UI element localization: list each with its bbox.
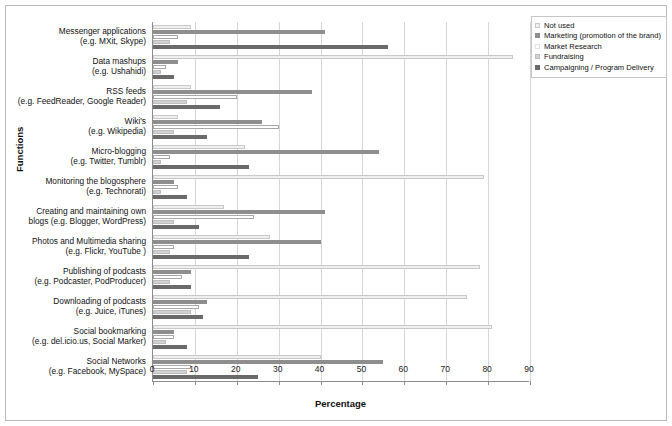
x-tick-label: 70 [440, 364, 449, 374]
bar [153, 90, 312, 94]
bar [153, 315, 203, 319]
bar [153, 35, 178, 39]
bar [153, 240, 321, 244]
bar [153, 120, 262, 124]
legend-item[interactable]: Marketing (promotion of the brand) [535, 31, 661, 42]
y-category-label: Data mashups (e.g. Ushahidi) [0, 57, 150, 76]
bar [153, 280, 170, 284]
bar [153, 135, 207, 139]
y-category-label: Photos and Multimedia sharing (e.g. Flic… [0, 237, 150, 256]
bar [153, 210, 325, 214]
bar [153, 305, 199, 309]
bar [153, 270, 191, 274]
bar [153, 55, 513, 59]
bar [153, 150, 379, 154]
x-tick-label: 0 [150, 364, 155, 374]
legend-swatch-icon [535, 23, 540, 28]
bar [153, 145, 245, 149]
bar [153, 275, 182, 279]
x-tick-mark [446, 381, 447, 385]
bar [153, 360, 383, 364]
legend-item[interactable]: Campaigning / Program Delivery [535, 62, 661, 73]
y-category-label: RSS feeds (e.g. FeedReader, Google Reade… [0, 87, 150, 106]
bar [153, 175, 484, 179]
legend-item[interactable]: Fundraising [535, 52, 661, 63]
legend-swatch-icon [535, 54, 540, 59]
x-tick-mark [195, 381, 196, 385]
bar [153, 190, 161, 194]
bar [153, 370, 187, 374]
bar [153, 75, 174, 79]
bar [153, 220, 174, 224]
x-tick-mark [237, 381, 238, 385]
bar [153, 40, 170, 44]
y-category-label: Publishing of podcasts (e.g. Podcaster, … [0, 267, 150, 286]
bar [153, 100, 187, 104]
bar [153, 65, 166, 69]
y-category-label: Social Networks (e.g. Facebook, MySpace) [0, 357, 150, 376]
bar [153, 345, 187, 349]
legend-swatch-icon [535, 33, 540, 38]
bar [153, 160, 161, 164]
bar [153, 165, 249, 169]
chart-legend: Not usedMarketing (promotion of the bran… [531, 16, 667, 78]
legend-swatch-icon [535, 65, 540, 70]
bar [153, 325, 492, 329]
legend-item-label: Campaigning / Program Delivery [544, 63, 654, 72]
bar [153, 335, 174, 339]
bar [153, 355, 321, 359]
y-category-label: Micro-blogging (e.g. Twitter, Tumblr) [0, 147, 150, 166]
x-tick-mark [279, 381, 280, 385]
legend-item-label: Market Research [544, 42, 602, 51]
bar [153, 225, 199, 229]
bar [153, 115, 178, 119]
bar [153, 85, 191, 89]
bar [153, 295, 467, 299]
x-tick-label: 30 [273, 364, 282, 374]
bar [153, 25, 191, 29]
bar [153, 235, 270, 239]
bar [153, 330, 174, 334]
bar [153, 310, 191, 314]
bar [153, 245, 174, 249]
bar [153, 185, 178, 189]
plot-area [152, 22, 529, 382]
bar [153, 265, 480, 269]
bar [153, 195, 187, 199]
bar [153, 105, 220, 109]
bar [153, 205, 224, 209]
x-tick-label: 50 [357, 364, 366, 374]
bar [153, 60, 178, 64]
bar [153, 375, 258, 379]
y-category-label: Monitoring the blogosphere (e.g. Technor… [0, 177, 150, 196]
y-category-label: Creating and maintaining own blogs (e.g.… [0, 207, 150, 226]
bar [153, 365, 191, 369]
x-tick-mark [362, 381, 363, 385]
legend-item-label: Fundraising [544, 52, 584, 61]
x-tick-label: 10 [189, 364, 198, 374]
x-tick-label: 20 [231, 364, 240, 374]
bar [153, 340, 166, 344]
bar [153, 130, 174, 134]
bar [153, 155, 170, 159]
x-tick-mark [530, 381, 531, 385]
legend-swatch-icon [535, 44, 540, 49]
legend-item[interactable]: Not used [535, 20, 661, 31]
bar [153, 95, 237, 99]
bar [153, 180, 174, 184]
x-axis-title: Percentage [152, 398, 529, 409]
legend-item-label: Marketing (promotion of the brand) [544, 31, 661, 40]
legend-item-label: Not used [544, 21, 574, 30]
y-category-label: Wiki's (e.g. Wikipedia) [0, 117, 150, 136]
bar [153, 70, 161, 74]
bar [153, 30, 325, 34]
bar [153, 250, 170, 254]
legend-item[interactable]: Market Research [535, 41, 661, 52]
x-tick-label: 80 [482, 364, 491, 374]
y-category-label: Social bookmarking (e.g. del.icio.us, So… [0, 327, 150, 346]
bar [153, 125, 279, 129]
x-tick-label: 60 [399, 364, 408, 374]
bar [153, 300, 207, 304]
y-category-label: Downloading of podcasts (e.g. Juice, iTu… [0, 297, 150, 316]
y-category-label: Messenger applications (e.g. MXit, Skype… [0, 27, 150, 46]
